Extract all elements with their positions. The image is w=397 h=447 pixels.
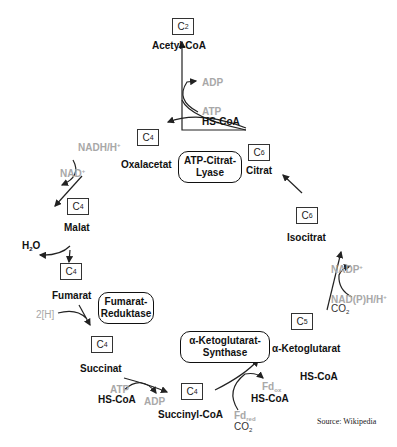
metabolite-succinyl-coa: Succinyl-CoA bbox=[158, 409, 223, 420]
carbon-box-malat: C4 bbox=[67, 198, 89, 215]
carbon-box-acetyl-coa: C2 bbox=[172, 18, 194, 35]
metabolite-oxalacetat: Oxalacetat bbox=[121, 159, 172, 170]
enzyme-atp-citrat-lyase: ATP-Citrat-Lyase bbox=[178, 151, 242, 183]
metabolite-citrat: Citrat bbox=[246, 165, 272, 176]
metabolite-fumarat: Fumarat bbox=[52, 290, 91, 301]
enzyme-ketoglutarat-synthase: α-Ketoglutarat-Synthase bbox=[180, 331, 270, 363]
enzyme-fumarat-reduktase: Fumarat-Reduktase bbox=[98, 292, 154, 324]
metabolite-malat: Malat bbox=[64, 222, 90, 233]
cofactor-co2-2: CO2 bbox=[331, 303, 349, 318]
metabolite-acetyl-coa: Acetyl-CoA bbox=[152, 40, 206, 51]
cofactor-hscoa: HS-CoA bbox=[202, 116, 240, 127]
carbon-box-oxalacetat: C4 bbox=[137, 129, 159, 146]
cofactor-hscoa-3: HS-CoA bbox=[251, 393, 289, 404]
cofactor-nad: NAD+ bbox=[60, 166, 85, 179]
cofactor-adp-2: ADP bbox=[144, 396, 165, 407]
cofactor-adp: ADP bbox=[202, 77, 223, 88]
cofactor-hscoa-4: HS-CoA bbox=[300, 371, 338, 382]
cofactor-2h: 2[H] bbox=[36, 309, 54, 320]
carbon-box-succinat: C4 bbox=[91, 336, 113, 353]
cofactor-hscoa-2: HS-CoA bbox=[98, 394, 136, 405]
metabolite-isocitrat: Isocitrat bbox=[287, 232, 326, 243]
carbon-box-citrat: C6 bbox=[248, 144, 270, 161]
carbon-box-succinyl-coa: C4 bbox=[181, 383, 203, 400]
carbon-box-ketoglutarat: C5 bbox=[291, 313, 313, 330]
cofactor-nadh: NADH/H+ bbox=[78, 140, 120, 153]
carbon-box-fumarat: C4 bbox=[60, 263, 82, 280]
metabolite-ketoglutarat: α-Ketoglutarat bbox=[272, 343, 340, 354]
carbon-box-isocitrat: C6 bbox=[296, 207, 318, 224]
metabolite-succinat: Succinat bbox=[80, 363, 122, 374]
cofactor-nadp: NADP+ bbox=[331, 262, 363, 275]
cofactor-co2: CO2 bbox=[234, 421, 252, 436]
source-caption: Source: Wikipedia bbox=[317, 417, 376, 426]
cofactor-h2o: H2O bbox=[22, 240, 40, 255]
